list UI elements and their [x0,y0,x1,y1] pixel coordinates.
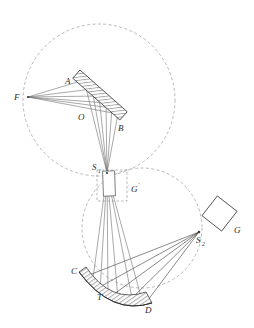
slit-point-S2 [198,231,201,234]
detector-grating-square [202,196,237,231]
label-S1: S [92,162,97,172]
label-G-prime: G [131,184,138,194]
intermediate-slit-box [103,171,116,196]
optics-figure: F A B O S 1 G ' C T D S 2 G [0,0,254,328]
slit-point-S1 [106,172,108,174]
label-S1-subscript: 1 [98,168,101,174]
label-S2: S [196,235,201,245]
label-G: G [234,225,241,235]
label-F: F [13,92,20,102]
label-G-prime-prime: ' [138,182,140,188]
optics-diagram-svg: F A B O S 1 G ' C T D S 2 G [0,0,254,328]
label-C: C [71,266,78,276]
focus-point-F [27,96,29,98]
label-D: D [144,305,152,315]
label-S2-subscript: 2 [202,241,205,247]
label-A: A [64,76,71,86]
label-O: O [78,112,85,122]
label-B: B [118,123,124,133]
